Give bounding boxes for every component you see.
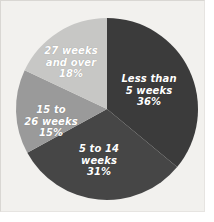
pie-chart-plot-area: Less than 5 weeks36% 5 to 14 weeks31% 15… [1,1,205,212]
pie-chart-figure: Less than 5 weeks36% 5 to 14 weeks31% 15… [0,0,205,212]
pie-chart-svg [1,1,205,212]
